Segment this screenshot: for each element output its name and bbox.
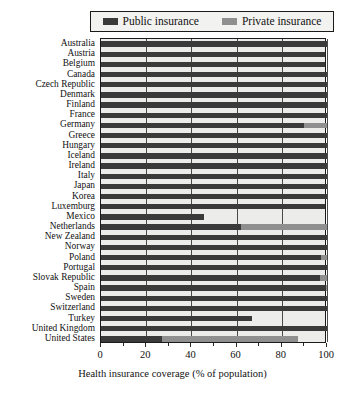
y-axis-category-labels: AustraliaAustriaBelgiumCanadaCzech Repub…: [0, 38, 98, 343]
bar-segment: [241, 224, 327, 229]
bar-row: [101, 72, 327, 77]
bar-row: [101, 224, 327, 229]
bar-row: [101, 265, 327, 270]
bar-segment: [101, 41, 327, 46]
bar-segment: [101, 123, 304, 128]
y-axis-label: Turkey: [68, 314, 95, 323]
x-tick-minor: [123, 343, 124, 346]
bar-segment: [101, 204, 325, 209]
bar-segment: [101, 113, 327, 118]
bar-row: [101, 102, 327, 107]
y-axis-label: Sweden: [65, 293, 95, 302]
chart-figure: Public insurance Private insurance Austr…: [0, 0, 345, 403]
bar-row: [101, 163, 327, 168]
y-axis-label: Germany: [60, 120, 95, 129]
bar-segment: [101, 326, 327, 331]
y-axis-label: Ireland: [68, 161, 95, 170]
y-axis-label: Finland: [66, 100, 95, 109]
bar-segment: [101, 245, 327, 250]
bar-row: [101, 245, 327, 250]
bar-row: [101, 92, 327, 97]
y-axis-label: Austria: [67, 49, 95, 58]
bar-segment: [101, 52, 325, 57]
y-axis-label: United States: [45, 334, 95, 343]
chart-legend: Public insurance Private insurance: [90, 11, 334, 32]
bar-row: [101, 82, 327, 87]
x-tick-minor: [168, 343, 169, 346]
bar-segment: [101, 102, 327, 107]
bar-row: [101, 113, 327, 118]
bar-segment: [320, 275, 327, 280]
x-tick-minor: [213, 343, 214, 346]
y-axis-label: Norway: [65, 242, 95, 251]
bar-segment: [101, 235, 327, 240]
x-tick-60: [236, 343, 237, 347]
bar-row: [101, 316, 327, 321]
y-axis-label: New Zealand: [45, 232, 95, 241]
y-axis-label: Netherlands: [50, 222, 95, 231]
x-axis-title: Health insurance coverage (% of populati…: [0, 368, 345, 380]
bar-segment: [101, 184, 327, 189]
bar-row: [101, 62, 327, 67]
y-axis-label: Portugal: [63, 263, 95, 272]
bar-rows: [101, 39, 325, 342]
bar-segment: [101, 62, 325, 67]
x-tick-80: [281, 343, 282, 347]
legend-swatch-public-icon: [103, 18, 118, 25]
y-axis-label: Luxemburg: [51, 202, 95, 211]
bar-row: [101, 143, 327, 148]
bar-row: [101, 123, 327, 128]
x-tick-label-20: 20: [140, 350, 151, 361]
x-tick-label-0: 0: [97, 350, 102, 361]
bar-segment: [101, 316, 252, 321]
y-axis-label: United Kingdom: [32, 324, 95, 333]
x-tick-label-60: 60: [230, 350, 241, 361]
bar-row: [101, 214, 327, 219]
y-axis-label: Japan: [74, 181, 95, 190]
bar-row: [101, 255, 327, 260]
bar-segment: [101, 92, 327, 97]
bar-row: [101, 41, 327, 46]
legend-label-public: Public insurance: [123, 16, 199, 28]
x-tick-40: [190, 343, 191, 347]
bar-segment: [304, 123, 327, 128]
y-axis-label: Spain: [74, 283, 95, 292]
x-axis-ticks: [100, 343, 326, 349]
y-axis-label: Australia: [61, 39, 95, 48]
bar-segment: [321, 255, 327, 260]
y-axis-label: Poland: [69, 253, 95, 262]
bar-row: [101, 275, 327, 280]
bar-row: [101, 336, 327, 341]
bar-segment: [101, 72, 327, 77]
y-axis-label: Hungary: [62, 141, 95, 150]
x-tick-label-80: 80: [276, 350, 287, 361]
bar-row: [101, 326, 327, 331]
bar-segment: [101, 143, 327, 148]
bar-segment: [101, 153, 327, 158]
y-axis-label: Greece: [68, 131, 95, 140]
bar-row: [101, 296, 327, 301]
y-axis-label: Mexico: [66, 212, 95, 221]
plot-area: [100, 38, 326, 343]
bar-row: [101, 184, 327, 189]
x-tick-20: [145, 343, 146, 347]
bar-row: [101, 133, 327, 138]
bar-row: [101, 153, 327, 158]
bar-segment: [101, 296, 327, 301]
x-tick-label-40: 40: [185, 350, 196, 361]
y-axis-label: France: [69, 110, 95, 119]
bar-segment: [101, 174, 327, 179]
y-axis-label: Czech Republic: [35, 80, 95, 89]
y-axis-label: Denmark: [60, 90, 95, 99]
y-axis-label: Canada: [67, 70, 95, 79]
bar-segment: [101, 265, 327, 270]
bar-row: [101, 306, 327, 311]
bar-segment: [162, 336, 298, 341]
y-axis-label: Slovak Republic: [33, 273, 95, 282]
y-axis-label: Belgium: [63, 59, 95, 68]
bar-segment: [326, 285, 327, 290]
bar-row: [101, 194, 327, 199]
bar-segment: [101, 133, 327, 138]
bar-segment: [101, 163, 327, 168]
y-axis-label: Switzerland: [50, 303, 95, 312]
